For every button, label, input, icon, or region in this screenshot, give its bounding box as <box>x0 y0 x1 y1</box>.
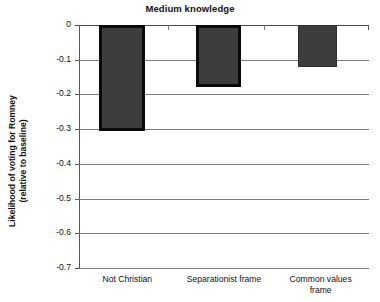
axis-end-tick <box>368 25 369 30</box>
y-axis-tick <box>75 25 79 26</box>
y-axis-tick-label: -0.6 <box>31 228 71 237</box>
y-axis-tick-label: -0.5 <box>31 194 71 203</box>
x-axis-category-label-line: Separationist frame <box>176 274 273 285</box>
y-axis-tick <box>75 233 79 234</box>
bar-2 <box>196 25 241 87</box>
y-axis-title-line-1: Likelihood of voting for Romney <box>7 61 18 261</box>
y-axis-tick-label: -0.7 <box>31 263 71 272</box>
y-axis-tick <box>75 129 79 130</box>
gridline <box>79 164 369 165</box>
y-axis-tick <box>75 268 79 269</box>
y-axis-title: Likelihood of voting for Romney (relativ… <box>7 61 29 261</box>
y-axis-tick-label: -0.1 <box>31 55 71 64</box>
category-separator-tick <box>264 25 265 30</box>
plot-area: 0-0.1-0.2-0.3-0.4-0.5-0.6-0.7 <box>79 25 369 268</box>
bar-1 <box>99 25 145 131</box>
bar-3 <box>298 25 337 67</box>
gridline <box>79 268 369 269</box>
y-axis-tick <box>75 94 79 95</box>
x-axis-category-label: Common valuesframe <box>272 274 369 296</box>
y-axis-tick-label: -0.3 <box>31 124 71 133</box>
chart-title: Medium knowledge <box>0 3 380 14</box>
y-axis-tick-label: -0.2 <box>31 89 71 98</box>
y-axis-tick-label: 0 <box>31 20 71 29</box>
x-axis-category-label-line: frame <box>272 285 369 296</box>
y-axis-title-line-2: (relative to baseline) <box>18 61 29 261</box>
x-axis-category-label: Not Christian <box>79 274 176 285</box>
y-axis-tick-label: -0.4 <box>31 159 71 168</box>
y-axis-tick <box>75 164 79 165</box>
gridline <box>79 199 369 200</box>
gridline <box>79 233 369 234</box>
x-axis-category-label-line: Common values <box>272 274 369 285</box>
y-axis-tick <box>75 199 79 200</box>
category-separator-tick <box>168 25 169 30</box>
y-axis-tick <box>75 60 79 61</box>
x-axis-category-label: Separationist frame <box>176 274 273 285</box>
bar-chart-figure: Medium knowledge Likelihood of voting fo… <box>0 0 380 302</box>
x-axis-category-label-line: Not Christian <box>79 274 176 285</box>
